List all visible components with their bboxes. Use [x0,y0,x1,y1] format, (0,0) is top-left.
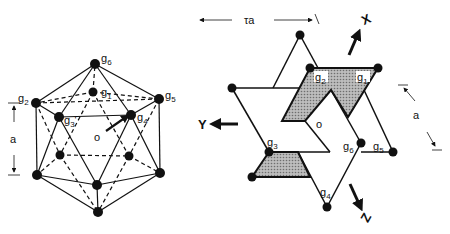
axis-z-arrow [350,184,360,206]
axis-y-label: Y [198,117,207,132]
shaded-region-lower [252,152,310,177]
label-g4: g4 [137,111,148,126]
proj-label-g6: g6 [343,140,354,155]
label-g2: g2 [18,92,29,107]
vertex-g4 [126,110,136,120]
icosahedron-figure [8,59,165,217]
dimension-tau-a [200,14,319,24]
vertex-g2 [31,98,41,108]
diagram-canvas: g6 g1 g2 g5 g3' g4 o a [0,0,450,234]
label-center-o: o [94,131,100,143]
axis-z-label: Z [357,210,374,224]
proj-vertex-g5 [389,148,398,157]
axis-x-label: X [359,11,373,28]
label-g5: g5 [165,89,176,104]
proj-vertex-g4 [323,203,332,212]
proj-label-side-a: a [413,109,420,121]
dimension-a-right [398,85,442,150]
axis-x-arrow [349,34,358,55]
label-g1: g1 [101,86,112,101]
projection-figure [200,14,442,212]
proj-label-center-o: o [316,118,322,130]
vertex-g6 [90,59,100,69]
vertex-g5 [154,94,164,104]
proj-vertex-g6 [357,139,366,148]
proj-vertex-g2 [306,64,315,73]
center-arrow [106,117,126,131]
label-tau-a: τa [244,14,255,26]
label-dimension-a: a [10,133,17,145]
proj-vertex-g1 [374,64,383,73]
vertex-g3 [54,112,64,122]
proj-label-g4: g4 [320,186,331,201]
vertex-g1 [89,88,98,97]
label-g6: g6 [101,52,112,67]
